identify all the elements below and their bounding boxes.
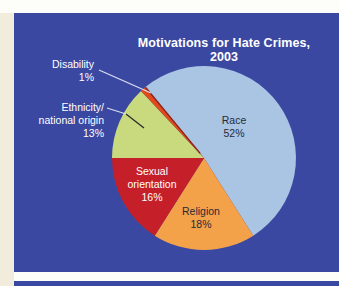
sexual-label-pct: 16% xyxy=(116,191,188,204)
pie-chart xyxy=(0,0,339,286)
ethnicity-label-line1: Ethnicity/ xyxy=(24,101,104,114)
leader-line-ethnicity-national-origin xyxy=(107,108,126,114)
ethnicity-label-pct: 13% xyxy=(24,127,104,140)
next-panel-top-edge xyxy=(14,281,339,286)
ethnicity-label-line2: national origin xyxy=(24,114,104,127)
religion-label-pct: 18% xyxy=(170,218,232,231)
disability-label-name: Disability xyxy=(24,58,94,71)
slice-label-religion: Religion 18% xyxy=(170,205,232,231)
slice-label-ethnicity: Ethnicity/ national origin 13% xyxy=(24,101,104,140)
slice-label-sexual-orientation: Sexual orientation 16% xyxy=(116,165,188,204)
sexual-label-line2: orientation xyxy=(116,178,188,191)
sexual-label-line1: Sexual xyxy=(116,165,188,178)
slice-label-race: Race 52% xyxy=(204,114,264,140)
page: Motivations for Hate Crimes, 2003 Race 5… xyxy=(0,0,339,286)
disability-label-pct: 1% xyxy=(24,71,94,84)
race-label-name: Race xyxy=(204,114,264,127)
religion-label-name: Religion xyxy=(170,205,232,218)
race-label-pct: 52% xyxy=(204,127,264,140)
leader-line-disability xyxy=(99,70,151,93)
slice-label-disability: Disability 1% xyxy=(24,58,94,84)
